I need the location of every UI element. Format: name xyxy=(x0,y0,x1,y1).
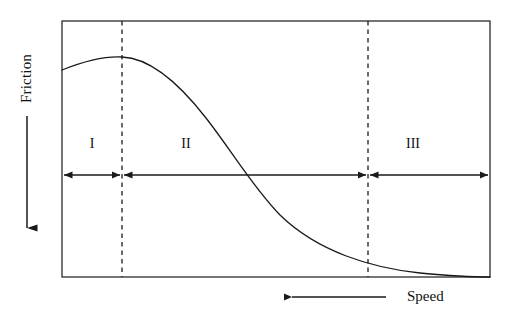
region-label-ii: II xyxy=(181,136,190,152)
y-axis-label: Friction xyxy=(0,45,54,111)
plot-frame xyxy=(62,21,490,277)
stribeck-curve-figure: Friction Speed I II III xyxy=(0,0,506,317)
x-axis-label: Speed xyxy=(407,288,444,305)
region-label-i: I xyxy=(90,136,95,152)
y-axis-label-text: Friction xyxy=(18,53,35,102)
region-label-iii: III xyxy=(406,136,420,152)
figure-canvas xyxy=(0,0,506,317)
friction-curve xyxy=(62,57,490,277)
